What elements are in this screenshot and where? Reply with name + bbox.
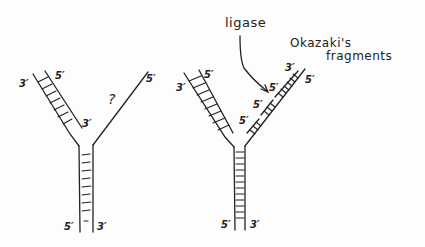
right-fork-arm-3prime-label: 3′ xyxy=(176,83,186,93)
left-stem-5prime-label: 5′ xyxy=(64,222,74,232)
okazaki-fragment-3-5prime-label: 5′ xyxy=(269,83,279,93)
right-fork-arm-5prime-label: 5′ xyxy=(204,70,214,80)
right-stem-3prime-label: 3′ xyxy=(250,220,260,230)
left-fork-arm-5prime-label: 5′ xyxy=(55,71,65,81)
okazaki-fragment-1-5prime-label: 5′ xyxy=(239,116,249,126)
okazaki-label-line2: fragments xyxy=(326,50,392,62)
left-fork-inner-3prime-label: 3′ xyxy=(82,119,92,129)
left-stem-3prime-label: 3′ xyxy=(97,222,107,232)
diagram-drawing xyxy=(0,0,425,247)
okazaki-fragment-2-5prime-label: 5′ xyxy=(253,100,263,110)
left-fork-right-arm-5prime-label: 5′ xyxy=(146,74,156,84)
dna-replication-diagram: 3′ 5′ 3′ 5′ ? 5′ 3′ 3′ 5′ 5′ 5′ 5′ 3′ 5′… xyxy=(0,0,425,247)
left-replication-fork xyxy=(33,71,148,232)
okazaki-top-3prime-label: 3′ xyxy=(285,63,295,73)
question-mark-label: ? xyxy=(108,92,115,106)
ligase-arrow xyxy=(240,36,267,91)
left-fork-arm-3prime-label: 3′ xyxy=(19,79,29,89)
ligase-label: ligase xyxy=(225,16,266,29)
right-fork-right-arm-5prime-label: 5′ xyxy=(305,75,315,85)
right-stem-5prime-label: 5′ xyxy=(221,220,231,230)
okazaki-label-line1: Okazaki's xyxy=(290,37,352,49)
